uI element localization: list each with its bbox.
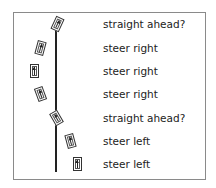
row-label-1: straight ahead?	[103, 18, 185, 30]
row-label-7: steer left	[103, 158, 150, 170]
reference-line	[55, 20, 57, 172]
row-label-2: steer right	[103, 42, 158, 54]
car-icon-3	[30, 64, 39, 78]
row-label-4: steer right	[103, 88, 158, 100]
row-label-5: straight ahead?	[103, 112, 185, 124]
row-label-3: steer right	[103, 65, 158, 77]
row-label-6: steer left	[103, 135, 150, 147]
car-icon-7	[73, 157, 82, 171]
